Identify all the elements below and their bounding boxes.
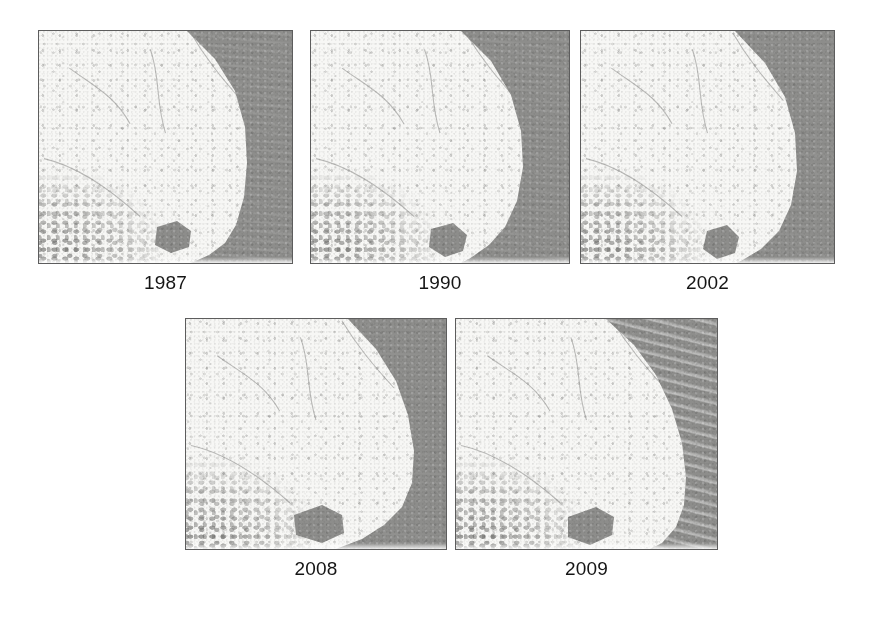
panel-year-caption-1990: 1990 xyxy=(310,272,570,294)
satellite-image-panel-1987[interactable] xyxy=(38,30,293,264)
panel-year-caption-2008: 2008 xyxy=(185,558,447,580)
satellite-scene xyxy=(311,31,569,263)
panel-year-caption-1987: 1987 xyxy=(38,272,293,294)
panel-year-caption-2002: 2002 xyxy=(580,272,835,294)
satellite-scene xyxy=(186,319,446,549)
satellite-image-panel-2002[interactable] xyxy=(580,30,835,264)
satellite-scene xyxy=(39,31,292,263)
satellite-image-panel-1990[interactable] xyxy=(310,30,570,264)
panel-year-caption-2009: 2009 xyxy=(455,558,718,580)
satellite-scene xyxy=(581,31,834,263)
satellite-image-panel-2009[interactable] xyxy=(455,318,718,550)
satellite-image-panel-2008[interactable] xyxy=(185,318,447,550)
satellite-image-series-figure: 1987 1990 xyxy=(0,0,875,617)
satellite-scene xyxy=(456,319,717,549)
